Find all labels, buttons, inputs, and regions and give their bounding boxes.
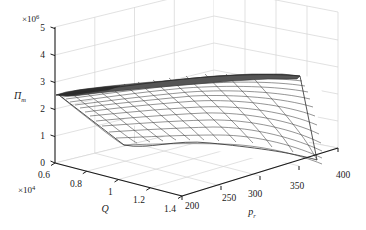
- y-tick-label-400: 400: [336, 170, 351, 180]
- x-tick-label-1: 1: [108, 187, 113, 197]
- z-tick-label-1: 1: [40, 131, 45, 141]
- z-axis-title-subscript: m: [21, 96, 26, 103]
- y-tick-label-200: 200: [185, 201, 200, 211]
- z-tick-label-3: 3: [40, 77, 45, 87]
- y-tick-label-350: 350: [290, 181, 305, 191]
- x-tick-label-1-4: 1.4: [164, 204, 176, 214]
- x-axis-title: Q: [101, 203, 109, 214]
- z-tick-label-0: 0: [40, 158, 45, 168]
- figure-3d-surface-plot: 5 4 3 2 1 0 ×106 Πm 0.6 0.8 1 1.2 1.4 ×1…: [0, 0, 366, 230]
- y-tick-label-300: 300: [248, 189, 263, 199]
- z-tick-label-2: 2: [40, 104, 45, 114]
- z-tick-label-4: 4: [40, 50, 45, 60]
- x-tick-label-0-6: 0.6: [38, 170, 50, 180]
- y-tick-label-250: 250: [222, 193, 237, 203]
- x-tick-label-0-8: 0.8: [70, 179, 82, 189]
- x-tick-label-1-2: 1.2: [133, 195, 145, 205]
- plot-canvas: 5 4 3 2 1 0 ×106 Πm 0.6 0.8 1 1.2 1.4 ×1…: [0, 0, 366, 230]
- z-tick-label-5: 5: [40, 23, 45, 33]
